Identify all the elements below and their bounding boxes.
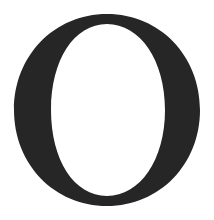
letter-o-shape — [0, 0, 214, 220]
letter-o-glyph: O — [0, 0, 214, 220]
